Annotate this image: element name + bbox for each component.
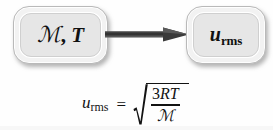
radical-sign-icon xyxy=(133,83,148,125)
node-output-inner-panel: urms xyxy=(193,13,259,57)
flow-arrow-icon xyxy=(105,27,189,42)
equation-lhs: urms xyxy=(82,94,109,113)
fraction-numerator: 3RT xyxy=(151,86,180,103)
radical-overbar xyxy=(146,83,189,84)
script-m-glyph: ℳ xyxy=(37,22,61,47)
u-variable-glyph: u xyxy=(210,23,221,45)
bottom-edge-band xyxy=(0,126,273,130)
numerator-coefficient: 3 xyxy=(152,85,160,102)
node-inputs-label: ℳ, T xyxy=(37,24,84,46)
rms-subscript: rms xyxy=(221,32,242,47)
square-root-expression: 3RT ℳ xyxy=(133,83,183,125)
fraction-denominator: ℳ xyxy=(156,108,175,124)
equals-sign: = xyxy=(117,96,127,113)
equation-u-variable: u xyxy=(82,93,91,112)
fraction: 3RT ℳ xyxy=(148,83,183,125)
italic-t-glyph: T xyxy=(71,23,84,47)
equation-rms-subscript: rms xyxy=(91,101,109,115)
label-comma: , xyxy=(61,23,66,47)
node-output: urms xyxy=(186,6,266,64)
numerator-symbols: RT xyxy=(160,85,179,102)
equation: urms = 3RT ℳ xyxy=(82,80,222,128)
node-inputs-inner-panel: ℳ, T xyxy=(20,13,101,57)
figure-canvas: ℳ, T urms urms = xyxy=(0,0,273,130)
node-output-label: urms xyxy=(210,24,242,47)
node-inputs: ℳ, T xyxy=(13,6,108,64)
